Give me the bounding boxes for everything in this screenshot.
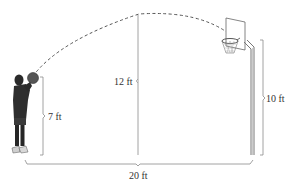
release-height-label: 7 ft xyxy=(48,112,62,122)
basketball-hoop xyxy=(222,18,254,155)
player-figure xyxy=(12,73,39,154)
hoop-height-bracket xyxy=(260,40,265,155)
max-height-label: 12 ft xyxy=(114,77,133,87)
distance-bracket xyxy=(25,160,253,166)
ball-trajectory xyxy=(33,13,232,76)
hoop-height-label: 10 ft xyxy=(266,94,285,104)
basketball-diagram xyxy=(0,0,293,184)
release-height-bracket xyxy=(40,77,45,155)
basketball xyxy=(28,73,39,84)
distance-label: 20 ft xyxy=(129,171,148,181)
